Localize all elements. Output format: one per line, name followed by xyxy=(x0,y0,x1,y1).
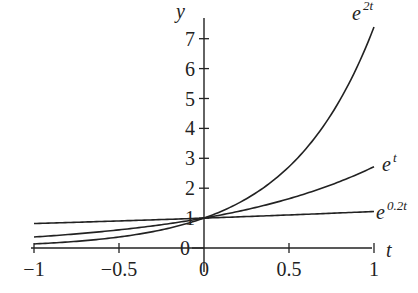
y-axis-label: y xyxy=(174,0,185,23)
y-tick-label: 5 xyxy=(185,88,195,110)
svg-text:t: t xyxy=(393,150,397,165)
y-tick-label: 7 xyxy=(185,28,195,50)
x-tick-label: 0 xyxy=(199,258,209,280)
svg-text:e: e xyxy=(382,153,391,175)
curve-label-et: e t xyxy=(382,150,397,175)
svg-text:2t: 2t xyxy=(363,0,374,13)
y-tick-label: 4 xyxy=(185,117,195,139)
y-tick-label: 0 xyxy=(180,237,190,259)
curve-label-e2t: e 2t xyxy=(352,0,374,24)
svg-text:e: e xyxy=(352,2,361,24)
x-axis-label: t xyxy=(386,239,392,261)
x-tick-label: 1 xyxy=(369,258,379,280)
exponential-chart: −1−0.500.51 01234567 t y e 2t e t e 0.2t xyxy=(0,0,418,293)
svg-text:e: e xyxy=(376,201,385,223)
svg-text:0.2t: 0.2t xyxy=(387,198,407,213)
curve-label-e02t: e 0.2t xyxy=(376,198,407,223)
y-tick-label: 2 xyxy=(185,177,195,199)
y-tick-label: 6 xyxy=(185,58,195,80)
y-tick-label: 1 xyxy=(185,207,195,229)
y-tick-label: 3 xyxy=(185,147,195,169)
x-tick-label: −1 xyxy=(23,258,44,280)
x-tick-label: −0.5 xyxy=(101,258,137,280)
x-tick-label: 0.5 xyxy=(277,258,302,280)
